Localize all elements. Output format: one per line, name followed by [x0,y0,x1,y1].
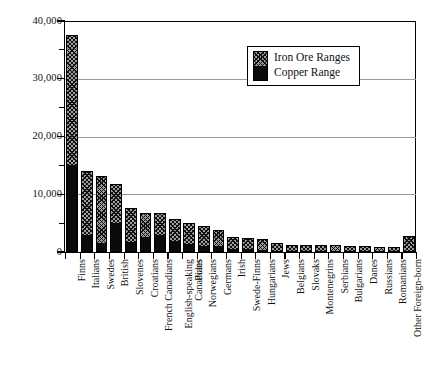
x-tick-9 [197,252,198,259]
bar-germans [213,230,225,252]
x-tick-21 [372,252,373,259]
bar-segment-iron-ore-ranges [315,245,327,252]
bar-segment-iron-ore-ranges [344,246,356,252]
bar-segment-copper-range [154,235,166,252]
bar-segment-iron-ore-ranges [66,35,78,166]
bar-segment-copper-range [66,165,78,252]
x-tick-7 [167,252,168,259]
x-axis-label-danes: Danes [369,259,380,364]
bar-british [110,184,122,252]
bar-segment-iron-ore-ranges [96,176,108,243]
x-axis-label-bulgarians: Bulgarians [354,259,365,364]
legend-swatch-iron-ore-ranges [254,52,267,66]
bar-segment-iron-ore-ranges [242,238,254,249]
bar-segment-iron-ore-ranges [374,247,386,252]
y-axis-label-20000: 20,000 [2,131,62,142]
x-tick-24 [416,252,417,259]
bar-series-group [65,21,416,252]
x-axis-label-british: British [120,259,131,364]
x-tick-20 [358,252,359,259]
x-axis-label-montenegrins: Montenegrins [325,259,336,364]
bar-montenegrins [315,245,327,252]
bar-croatians [140,213,152,252]
bar-hungarians [257,239,269,252]
bar-segment-iron-ore-ranges [227,237,239,249]
bar-english-speaking-canadians [169,219,181,252]
y-axis-label-40000: 40,000 [2,16,62,27]
legend-label-copper-range: Copper Range [274,66,350,79]
bar-italians [81,171,93,252]
bar-segment-copper-range [169,241,181,252]
x-axis-label-other-foreign-born: Other Foreign-born [413,259,424,364]
bar-french-canadians [154,213,166,252]
x-axis-label-germans: Germans [223,259,234,364]
x-axis-label-belgians: Belgians [296,259,307,364]
x-tick-11 [226,252,227,259]
bar-danes [359,246,371,252]
x-tick-8 [182,252,183,259]
x-axis-label-croatians: Croatians [150,259,161,364]
bar-irish [227,237,239,252]
bar-segment-iron-ore-ranges [330,245,342,252]
bar-segment-iron-ore-ranges [125,208,137,243]
bar-segment-iron-ore-ranges [169,219,181,242]
x-axis-label-slovenes: Slovenes [135,259,146,364]
x-tick-18 [328,252,329,259]
x-axis-label-poles: Poles [194,259,205,364]
bar-poles [183,223,195,252]
bar-segment-copper-range [257,250,269,252]
x-tick-14 [270,252,271,259]
bar-jews [271,243,283,252]
bar-segment-iron-ore-ranges [257,239,269,250]
bar-segment-copper-range [125,242,137,252]
bar-norwegians [198,226,210,252]
bar-segment-copper-range [213,246,225,252]
x-tick-6 [153,252,154,259]
bar-segment-iron-ore-ranges [81,171,93,235]
x-axis-label-norwegians: Norwegians [208,259,219,364]
bar-slovaks [300,245,312,252]
x-tick-10 [211,252,212,259]
x-axis-label-french-canadians: French Canadians [164,259,175,364]
legend-swatch-copper-range [254,66,267,80]
x-tick-2 [94,252,95,259]
bar-segment-iron-ore-ranges [110,184,122,223]
bar-romanians [388,247,400,252]
bar-slovenes [125,208,137,252]
x-tick-3 [109,252,110,259]
bar-russians [374,247,386,252]
y-axis-label-0: 0 [2,247,62,258]
bar-segment-iron-ore-ranges [198,226,210,246]
bar-finns [66,35,78,252]
bar-segment-copper-range [242,249,254,252]
bar-segment-iron-ore-ranges [388,247,400,252]
x-tick-19 [343,252,344,259]
bar-segment-iron-ore-ranges [403,236,415,252]
legend-swatch [253,51,268,81]
x-tick-4 [124,252,125,259]
bar-segment-iron-ore-ranges [359,246,371,252]
bar-other-foreign-born [403,236,415,252]
bar-segment-copper-range [227,249,239,252]
bar-segment-iron-ore-ranges [286,245,298,253]
x-tick-13 [255,252,256,259]
x-axis-label-swedes: Swedes [106,259,117,364]
bar-chart: 010,00020,00030,00040,000 FinnsItaliansS… [0,0,433,365]
x-tick-12 [241,252,242,259]
bar-segment-copper-range [96,243,108,252]
x-tick-0 [65,252,66,259]
x-axis-label-italians: Italians [91,259,102,364]
x-tick-16 [299,252,300,259]
bar-segment-iron-ore-ranges [183,223,195,244]
x-tick-15 [284,252,285,259]
bar-belgians [286,245,298,253]
bar-segment-copper-range [81,235,93,252]
chart-legend: Iron Ore Ranges Copper Range [247,46,360,86]
bar-segment-iron-ore-ranges [271,243,283,252]
bar-segment-iron-ore-ranges [213,230,225,246]
bar-segment-iron-ore-ranges [154,213,166,236]
x-axis-label-russians: Russians [384,259,395,364]
bar-serbians [330,245,342,252]
x-axis-label-irish: Irish [237,259,248,364]
bar-segment-iron-ore-ranges [300,245,312,252]
